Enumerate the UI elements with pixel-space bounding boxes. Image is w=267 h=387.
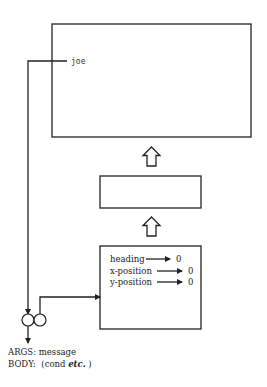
procedure-circle-right <box>34 314 46 326</box>
args-value: message <box>39 347 76 357</box>
slot-value: 0 <box>176 254 181 264</box>
top-object-box <box>52 24 251 137</box>
body-line: BODY: (cond etc. ) <box>8 359 92 369</box>
slot-value: 0 <box>188 277 193 287</box>
slot-heading: heading 0 <box>110 254 181 264</box>
body-label: BODY: <box>8 359 36 369</box>
body-suffix: ) <box>88 359 91 369</box>
body-prefix: (cond <box>41 359 68 369</box>
args-line: ARGS: message <box>7 347 76 357</box>
args-label: ARGS: <box>7 347 36 357</box>
slot-name: heading <box>110 254 145 264</box>
slot-value: 0 <box>188 266 193 276</box>
middle-object-box <box>100 176 201 208</box>
procedure-circle-left <box>22 314 34 326</box>
inherits-arrow-icon <box>143 217 160 236</box>
inherits-arrow-icon <box>143 147 160 166</box>
slot-name: x-position <box>110 266 152 276</box>
environment-pointer-line <box>40 297 100 314</box>
slot-y-position: y-position 0 <box>109 277 193 287</box>
slot-x-position: x-position 0 <box>110 266 193 276</box>
slot-name: y-position <box>109 277 153 287</box>
body-emphasis: etc. <box>68 359 86 369</box>
joe-label: joe <box>71 57 86 66</box>
object-diagram: heading 0 x-position 0 y-position 0 joe … <box>0 0 267 387</box>
joe-pointer-line <box>28 61 67 314</box>
